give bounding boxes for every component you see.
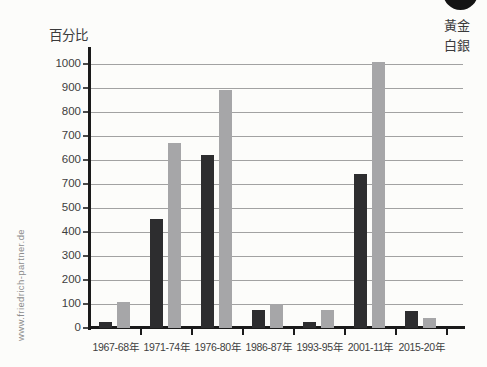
x-axis-tick bbox=[140, 329, 142, 335]
y-tick-label: 1000 bbox=[38, 57, 81, 69]
y-axis-line bbox=[88, 47, 91, 330]
bar-gold bbox=[405, 311, 418, 328]
bar-silver bbox=[270, 304, 283, 328]
y-tick-label: 900 bbox=[38, 81, 81, 93]
x-axis-tick bbox=[344, 329, 346, 335]
y-tick-label: 500 bbox=[38, 201, 81, 213]
gridline bbox=[91, 64, 463, 65]
x-tick-label: 1976-80年 bbox=[192, 339, 243, 354]
x-axis-tick bbox=[293, 329, 295, 335]
y-axis-tick bbox=[83, 183, 88, 185]
legend-item-gold: 黃金 bbox=[444, 16, 470, 36]
bar-gold bbox=[99, 322, 112, 328]
x-tick-label: 2001-11年 bbox=[345, 339, 396, 354]
bar-silver bbox=[168, 143, 181, 328]
x-axis-tick bbox=[395, 329, 397, 335]
y-axis-tick bbox=[83, 279, 88, 281]
y-tick-label: 200 bbox=[38, 273, 81, 285]
y-tick-label: 600 bbox=[38, 153, 81, 165]
y-tick-label: 700 bbox=[38, 177, 81, 189]
bar-silver bbox=[372, 62, 385, 328]
x-tick-label: 1971-74年 bbox=[141, 339, 192, 354]
y-axis-tick bbox=[83, 255, 88, 257]
bar-gold bbox=[150, 219, 163, 328]
x-axis-tick bbox=[191, 329, 193, 335]
partial-circle-icon bbox=[443, 0, 478, 10]
y-tick-label: 300 bbox=[38, 249, 81, 261]
y-axis-tick bbox=[83, 135, 88, 137]
x-tick-label: 1967-68年 bbox=[90, 339, 141, 354]
y-tick-label: 100 bbox=[38, 297, 81, 309]
bar-gold bbox=[252, 310, 265, 328]
y-tick-label: 800 bbox=[38, 105, 81, 117]
y-axis-tick bbox=[83, 207, 88, 209]
gridline bbox=[91, 280, 463, 281]
gridline bbox=[91, 208, 463, 209]
y-axis-title: 百分比 bbox=[49, 24, 88, 44]
x-tick-label: 1986-87年 bbox=[243, 339, 294, 354]
watermark-url: www.friedrich-partner.de bbox=[15, 229, 26, 341]
legend: 黃金 白銀 bbox=[444, 16, 470, 56]
gridline bbox=[91, 136, 463, 137]
bar-silver bbox=[321, 310, 334, 328]
bar-silver bbox=[219, 90, 232, 328]
y-axis-tick bbox=[83, 111, 88, 113]
bar-silver bbox=[423, 318, 436, 328]
gridline bbox=[91, 112, 463, 113]
scanned-chart-page: www.friedrich-partner.de 百分比 黃金 白銀 01002… bbox=[0, 0, 487, 367]
bar-gold bbox=[354, 174, 367, 328]
y-axis-tick bbox=[83, 303, 88, 305]
x-tick-label: 2015-20年 bbox=[396, 339, 447, 354]
legend-item-silver: 白銀 bbox=[444, 36, 470, 56]
gridline bbox=[91, 160, 463, 161]
gridline bbox=[91, 232, 463, 233]
y-axis-tick bbox=[83, 87, 88, 89]
y-axis-tick bbox=[83, 327, 88, 329]
y-tick-label: 700 bbox=[38, 129, 81, 141]
bar-gold bbox=[303, 322, 316, 328]
bar-gold bbox=[201, 155, 214, 328]
bar-silver bbox=[117, 302, 130, 328]
y-axis-tick bbox=[83, 231, 88, 233]
x-axis-tick bbox=[242, 329, 244, 335]
y-axis-tick bbox=[83, 159, 88, 161]
gridline bbox=[91, 88, 463, 89]
gridline bbox=[91, 256, 463, 257]
y-axis-tick bbox=[83, 63, 88, 65]
x-axis-tick bbox=[446, 329, 448, 335]
x-tick-label: 1993-95年 bbox=[294, 339, 345, 354]
y-tick-label: 0 bbox=[38, 321, 81, 333]
y-tick-label: 400 bbox=[38, 225, 81, 237]
gridline bbox=[91, 184, 463, 185]
